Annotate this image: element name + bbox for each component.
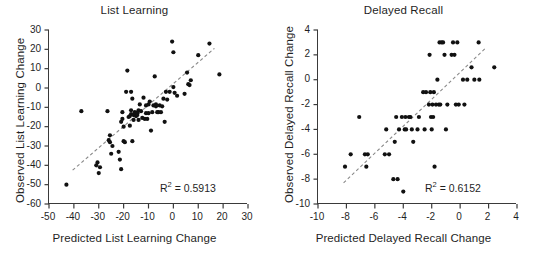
scatter-point — [397, 127, 401, 131]
scatter-point — [442, 53, 446, 57]
scatter-point — [469, 65, 473, 69]
scatter-point — [452, 53, 456, 57]
y-axis-tick-label: 30 — [8, 24, 41, 35]
scatter-point — [391, 177, 395, 181]
scatter-point — [441, 40, 445, 44]
scatter-point — [462, 102, 466, 106]
scatter-point — [432, 90, 436, 94]
scatter-point — [465, 78, 469, 82]
y-axis-tick-label: -30 — [8, 140, 41, 151]
plot-area-list-learning — [48, 30, 247, 204]
scatter-point — [175, 94, 179, 98]
scatter-point — [461, 78, 465, 82]
scatter-point — [185, 70, 189, 74]
panel-delayed-recall: Delayed Recall Observed Delayed Recall C… — [269, 0, 538, 255]
y-axis-tick-label: 10 — [8, 62, 41, 73]
scatter-point — [64, 183, 68, 187]
y-axis-tick-label: 2 — [277, 48, 310, 59]
scatter-point — [130, 139, 134, 143]
scatter-point — [124, 90, 128, 94]
scatter-point — [139, 109, 143, 113]
scatter-point — [477, 78, 481, 82]
y-axis-tick-label: -10 — [8, 101, 41, 112]
scatter-point — [472, 78, 476, 82]
trend-line — [344, 49, 485, 183]
y-axis-tick-label: -40 — [8, 159, 41, 170]
scatter-point — [451, 40, 455, 44]
scatter-point — [163, 120, 167, 124]
scatter-point — [411, 140, 415, 144]
xaxis-title-delayed-recall: Predicted Delayed Recall Change — [269, 232, 538, 244]
scatter-point — [387, 152, 391, 156]
y-axis-tick-label: -10 — [277, 198, 310, 209]
y-axis-tick-label: 0 — [8, 82, 41, 93]
scatter-point — [404, 127, 408, 131]
scatter-point — [217, 72, 221, 76]
xaxis-title-list-learning: Predicted List Learning Change — [0, 232, 269, 244]
scatter-point — [457, 102, 461, 106]
scatter-point — [384, 127, 388, 131]
scatter-point — [207, 41, 211, 45]
scatter-point — [119, 167, 123, 171]
scatter-point — [161, 97, 165, 101]
scatter-point — [149, 128, 153, 132]
scatter-point — [110, 144, 114, 148]
scatter-point — [79, 109, 83, 113]
y-axis-tick-label: -20 — [8, 120, 41, 131]
scatter-point — [129, 108, 133, 112]
scatter-point — [123, 140, 127, 144]
scatter-point — [170, 40, 174, 44]
scatter-point — [138, 102, 142, 106]
scatter-point — [164, 90, 168, 94]
r-squared-label-list-learning: R2 = 0.5913 — [160, 180, 216, 194]
scatter-point — [97, 171, 101, 175]
scatter-point — [492, 65, 496, 69]
scatter-point — [130, 97, 134, 101]
scatter-point — [410, 127, 414, 131]
scatter-point — [118, 157, 122, 161]
scatter-point — [364, 165, 368, 169]
panel-list-learning: List Learning Observed List Learning Cha… — [0, 0, 269, 255]
x-axis-tick-label: 4 — [499, 211, 533, 222]
scatter-point — [196, 53, 200, 57]
scatter-point — [136, 118, 140, 122]
scatter-point — [128, 124, 132, 128]
scatter-point — [477, 40, 481, 44]
scatter-layer-delayed-recall — [318, 30, 516, 203]
panel-title-delayed-recall: Delayed Recall — [269, 4, 538, 16]
y-axis-tick-label: 20 — [8, 43, 41, 54]
y-axis-tick-label: -6 — [277, 148, 310, 159]
scatter-point — [444, 127, 448, 131]
scatter-point — [109, 152, 113, 156]
scatter-point — [432, 165, 436, 169]
scatter-point — [159, 110, 163, 114]
scatter-point — [415, 127, 419, 131]
scatter-point — [153, 74, 157, 78]
scatter-point — [141, 96, 145, 100]
scatter-point — [95, 160, 99, 164]
scatter-point — [182, 92, 186, 96]
scatter-point — [357, 115, 361, 119]
scatter-point — [349, 152, 353, 156]
scatter-point — [120, 110, 124, 114]
scatter-point — [408, 115, 412, 119]
scatter-point — [154, 102, 158, 106]
scatter-point — [105, 109, 109, 113]
scatter-point — [171, 85, 175, 89]
scatter-point — [117, 150, 121, 154]
y-axis-tick-label: -2 — [277, 98, 310, 109]
y-axis-tick-label: -50 — [8, 178, 41, 189]
scatter-point — [394, 115, 398, 119]
scatter-point — [189, 78, 193, 82]
scatter-point — [108, 140, 112, 144]
scatter-point — [122, 125, 126, 129]
scatter-point — [150, 110, 154, 114]
x-axis-tick-label: 30 — [230, 211, 264, 222]
scatter-point — [187, 83, 191, 87]
scatter-point — [424, 90, 428, 94]
scatter-point — [396, 177, 400, 181]
scatter-point — [129, 90, 133, 94]
y-axis-tick-label: 4 — [277, 24, 310, 35]
scatter-point — [171, 50, 175, 54]
scatter-point — [146, 111, 150, 115]
